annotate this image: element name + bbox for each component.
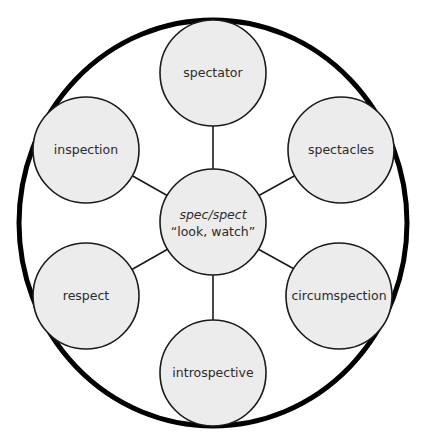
node-label: spectacles: [308, 142, 374, 157]
node-circumspection: circumspection: [286, 243, 392, 349]
node-inspection: inspection: [33, 97, 139, 203]
node-label: respect: [63, 288, 110, 303]
node-spectator: spectator: [160, 20, 266, 126]
center-meaning: “look, watch”: [171, 224, 256, 239]
connector-inspection: [131, 175, 168, 196]
word-web-diagram: spectator spectacles circumspection intr…: [0, 0, 425, 440]
node-label: introspective: [172, 365, 254, 380]
node-respect: respect: [33, 243, 139, 349]
node-label: inspection: [54, 142, 118, 157]
center-root: spec/spect: [179, 207, 247, 222]
connector-respect: [131, 249, 168, 270]
center-node: spec/spect “look, watch”: [160, 169, 266, 275]
connector-spectacles: [258, 175, 296, 196]
node-introspective: introspective: [160, 320, 266, 426]
node-spectacles: spectacles: [288, 97, 394, 203]
node-label: circumspection: [291, 288, 386, 303]
node-label: spectator: [183, 65, 243, 80]
connector-circumspection: [258, 249, 296, 270]
